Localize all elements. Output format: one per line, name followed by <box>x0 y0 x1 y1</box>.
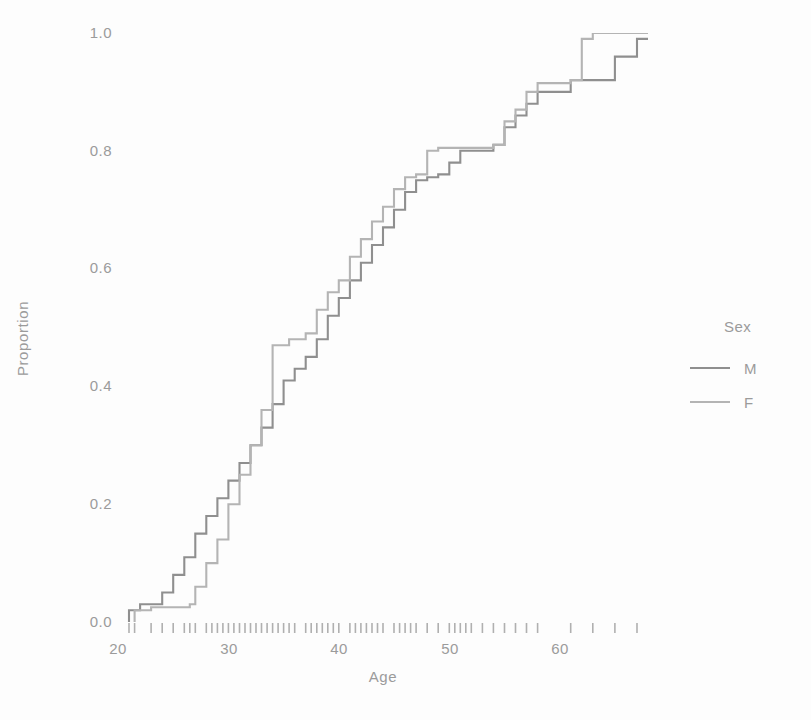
series-group-F <box>135 33 648 622</box>
legend: Sex M F <box>690 318 800 419</box>
legend-swatch-f-icon <box>690 401 730 403</box>
x-tick-label: 30 <box>204 640 254 657</box>
legend-label-m: M <box>744 360 757 377</box>
legend-item-f[interactable]: F <box>690 385 800 419</box>
legend-item-m[interactable]: M <box>690 351 800 385</box>
legend-title: Sex <box>724 318 800 335</box>
x-tick-label: 20 <box>93 640 143 657</box>
plot-svg <box>118 33 648 633</box>
x-axis-title: Age <box>118 668 648 685</box>
legend-swatch-m-icon <box>690 367 730 369</box>
rug-marks-group <box>129 623 637 633</box>
x-tick-label: 40 <box>314 640 364 657</box>
plot-area <box>118 33 648 622</box>
series-line-F <box>135 33 648 622</box>
series-group-M <box>129 39 648 622</box>
ecdf-chart-figure: 1.0 0.8 0.6 0.4 0.2 0.0 Proportion 20 30… <box>0 0 811 720</box>
x-tick-label: 60 <box>535 640 585 657</box>
legend-label-f: F <box>744 394 753 411</box>
x-tick-label: 50 <box>425 640 475 657</box>
series-line-M <box>129 39 648 622</box>
